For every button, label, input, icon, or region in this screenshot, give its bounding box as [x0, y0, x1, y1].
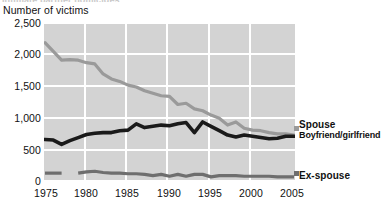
legend-label-ex-spouse: Ex-spouse: [299, 170, 350, 181]
x-tick-2000: 2000: [228, 188, 274, 199]
x-tick-1995: 1995: [187, 188, 233, 199]
legend-label-boyfriend-girlfriend: Boyfriend/girlfriend: [299, 130, 381, 140]
legend-spouse-group: Spouse Boyfriend/girlfriend: [299, 119, 381, 140]
x-tick-1990: 1990: [146, 188, 192, 199]
x-tick-1985: 1985: [104, 188, 150, 199]
x-tick-1980: 1980: [63, 188, 109, 199]
legend-label-spouse: Spouse: [299, 119, 381, 130]
x-tick-2005: 2005: [269, 188, 315, 199]
